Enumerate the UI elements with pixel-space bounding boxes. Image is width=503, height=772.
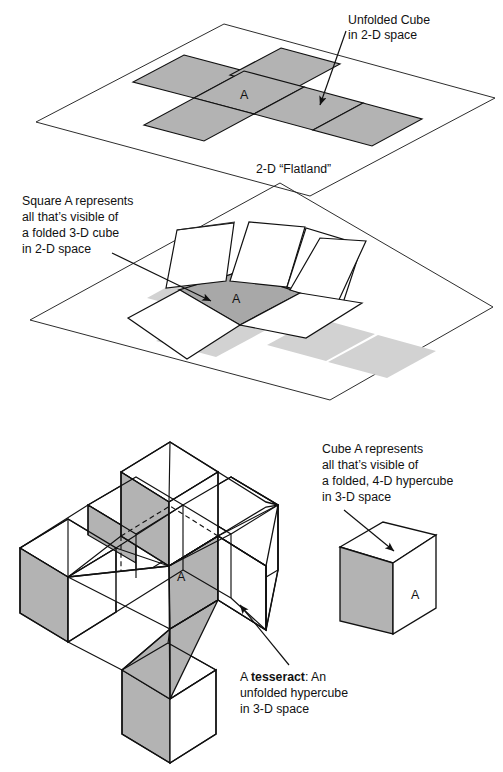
callout-panel-2-line3: a folded 3-D cube: [22, 226, 119, 240]
callout-panel-3-line3: in 3-D space: [240, 702, 309, 716]
cube-label-a-panel-4: A: [411, 588, 420, 602]
flatland-plane-label: 2-D “Flatland”: [256, 162, 331, 176]
callout-panel-4-line4: in 3-D space: [322, 490, 391, 504]
callout-panel-2-line2: all that’s visible of: [22, 210, 119, 224]
figure-root: Unfolded Cube in 2-D space A 2-D “Flatla…: [0, 0, 503, 772]
callout-panel-1-line1: Unfolded Cube: [348, 13, 430, 27]
callout-panel-4-line3: a folded, 4-D hypercube: [322, 474, 453, 488]
callout-panel-4-line1: Cube A represents: [322, 442, 423, 456]
square-label-a-panel-1: A: [240, 88, 249, 102]
tesseract-figure: Unfolded Cube in 2-D space A 2-D “Flatla…: [0, 0, 503, 772]
panel-3-tesseract: A tesseract: An unfolded hypercube in 3-…: [20, 442, 348, 763]
fold-flap-left-up: [166, 223, 234, 288]
callout-panel-1-line2: in 2-D space: [348, 28, 417, 42]
callout-panel-4-line2: all that’s visible of: [322, 458, 419, 472]
tesseract-suffix: : An: [305, 670, 326, 684]
unfolded-cube-net: [133, 48, 422, 146]
panel-2-folded-cube: Square A represents all that’s visible o…: [22, 183, 493, 400]
panel-4-cube-a: Cube A represents all that’s visible of …: [322, 442, 453, 634]
tesseract-bold-word: tesseract: [251, 670, 305, 684]
callout-panel-2-line1: Square A represents: [22, 194, 133, 208]
cube-label-a-tesseract: A: [177, 570, 186, 584]
square-label-a-panel-2: A: [232, 292, 241, 306]
panel-1-flatland: Unfolded Cube in 2-D space A 2-D “Flatla…: [36, 13, 495, 196]
callout-panel-2-line4: in 2-D space: [22, 242, 91, 256]
callout-panel-3-line1: A tesseract: An: [240, 670, 326, 684]
callout-panel-3-line2: unfolded hypercube: [240, 686, 348, 700]
cube-a-left-face: [340, 547, 393, 634]
tesseract-prefix: A: [240, 670, 251, 684]
